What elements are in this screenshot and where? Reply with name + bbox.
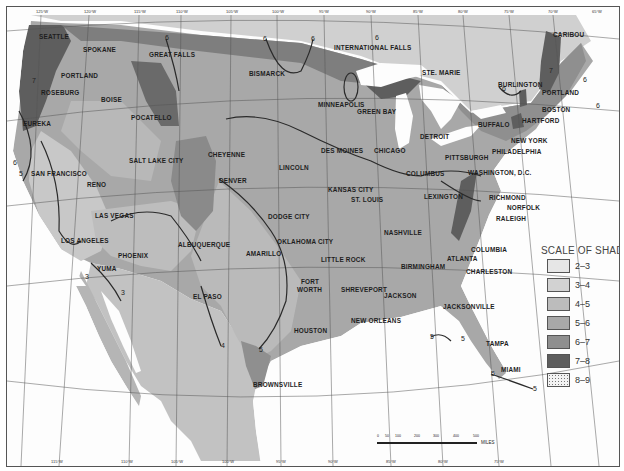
scale-tick: 0 [377,434,379,438]
city-label: HARTFORD [522,118,559,124]
contour-label: 5 [491,370,495,377]
scale-tick: 50 [385,434,389,438]
legend-swatch [547,354,570,368]
city-label: JACKSON [384,293,417,299]
contour-label: 3 [85,273,89,280]
city-label: ATLANTA [447,256,478,262]
legend-swatch-dotted [547,373,570,387]
legend-label: 3–4 [575,280,590,290]
legend-label: 4–5 [575,299,590,309]
city-label: BOSTON [542,107,570,113]
city-label: EL PASO [193,294,222,300]
city-label: WORTH [297,287,322,293]
longitude-tick: 80°W [458,9,468,14]
city-label: AMARILLO [246,251,281,257]
scale-tick: 100 [395,434,401,438]
city-label: POCATELLO [131,115,172,121]
longitude-tick: 85°W [413,9,423,14]
legend-item: 8–9 [547,370,620,389]
contour-label: 6 [13,159,17,166]
contour-label: 6 [375,34,379,41]
city-label: LINCOLN [279,165,309,171]
city-label: RICHMOND [489,195,526,201]
contour-label: 5 [461,335,465,342]
city-label: PITTSBURGH [445,155,489,161]
contour-label: 6 [583,76,587,83]
city-label: JACKSONVILLE [443,304,495,310]
city-label: GREAT FALLS [149,52,195,58]
city-label: LAS VEGAS [95,213,134,219]
contour-label: 6 [165,34,169,41]
city-label: CHARLESTON [466,269,512,275]
longitude-tick: 105°W [226,9,238,14]
city-label: DETROIT [420,134,449,140]
legend-swatch [547,259,570,273]
legend-swatch [547,278,570,292]
legend-label: 7–8 [575,356,590,366]
longitude-tick: 100°W [222,459,234,464]
scale-tick: 200 [414,434,420,438]
city-label: ST. LOUIS [351,197,383,203]
scale-unit: MILES [481,440,495,445]
city-label: CARIBOU [553,32,584,38]
longitude-tick: 100°W [272,9,284,14]
city-label: NEW YORK [511,138,548,144]
city-label: SALT LAKE CITY [129,158,184,164]
legend: SCALE OF SHADES 2–3 3–4 4–5 5–6 6–7 7–8 … [541,245,620,389]
scale-tick: 300 [433,434,439,438]
city-label: BROWNSVILLE [253,382,302,388]
city-label: GREEN BAY [357,109,396,115]
longitude-tick: 70°W [548,9,558,14]
contour-label: 5 [259,346,263,353]
legend-item: 2–3 [547,256,620,275]
contour-label: 4 [221,342,225,349]
legend-item: 6–7 [547,332,620,351]
city-label: DENVER [219,178,247,184]
contour-label: 6 [311,35,315,42]
city-label: PORTLAND [61,73,98,79]
longitude-tick: 65°W [592,9,602,14]
legend-item: 3–4 [547,275,620,294]
city-label: COLUMBUS [406,171,445,177]
city-label: BOISE [101,97,122,103]
map-frame: SEATTLESPOKANEGREAT FALLSPORTLANDROSEBUR… [6,6,620,467]
legend-label: 2–3 [575,261,590,271]
legend-item: 5–6 [547,313,620,332]
longitude-tick: 125°W [36,9,48,14]
city-label: SEATTLE [39,34,69,40]
longitude-tick: 75°W [494,459,504,464]
city-label: RALEIGH [496,216,526,222]
longitude-tick: 110°W [121,459,133,464]
city-label: WASHINGTON, D.C. [468,170,531,176]
city-label: KANSAS CITY [328,187,374,193]
city-label: MIAMI [501,367,521,373]
scale-tick: 500 [473,434,479,438]
city-label: TAMPA [486,341,509,347]
city-label: HOUSTON [294,328,327,334]
contour-label: 5 [533,385,537,392]
longitude-tick: 95°W [319,9,329,14]
contour-label: 3 [121,289,125,296]
legend-swatch [547,335,570,349]
longitude-tick: 90°W [328,459,338,464]
city-label: LOS ANGELES [61,238,109,244]
contour-label: 7 [549,67,553,74]
longitude-tick: 85°W [386,459,396,464]
city-label: NORFOLK [507,205,540,211]
legend-item: 7–8 [547,351,620,370]
legend-label: 6–7 [575,337,590,347]
city-label: CHICAGO [374,148,406,154]
contour-label: 5 [19,170,23,177]
scale-bar: 0 50 100 200 300 400 500 MILES [377,434,507,448]
legend-label: 8–9 [575,375,590,385]
city-label: BIRMINGHAM [401,264,445,270]
city-label: RENO [87,182,106,188]
city-label: PHOENIX [118,253,148,259]
city-label: LITTLE ROCK [321,257,365,263]
longitude-tick: 115°W [134,9,146,14]
city-label: PORTLAND [542,90,579,96]
city-label: COLUMBIA [471,247,507,253]
city-label: ALBUQUERQUE [178,242,230,248]
city-label: PHILADELPHIA [492,149,542,155]
longitude-tick: 75°W [504,9,514,14]
